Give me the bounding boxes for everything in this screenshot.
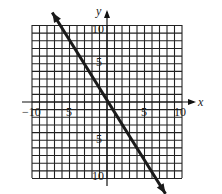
x-axis-label: x — [197, 95, 204, 109]
coordinate-plane: −105510105510 x y — [0, 0, 222, 194]
x-tick-label: −10 — [22, 105, 41, 119]
y-tick-label: 5 — [96, 132, 102, 146]
x-axis-arrow-icon — [188, 99, 196, 105]
y-axis-arrow-icon — [104, 10, 110, 18]
x-tick-label: 5 — [141, 105, 147, 119]
y-tick-label: 5 — [96, 55, 102, 69]
y-tick-label: 10 — [92, 22, 104, 36]
axes — [22, 10, 196, 186]
y-axis-label: y — [95, 4, 102, 18]
x-tick-label: 10 — [174, 105, 186, 119]
y-tick-label: 10 — [92, 169, 104, 183]
x-tick-label: 5 — [66, 105, 72, 119]
